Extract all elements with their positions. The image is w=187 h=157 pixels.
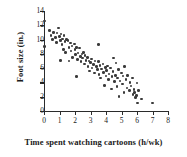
x-tick-mark (44, 111, 45, 115)
data-point (106, 65, 109, 68)
data-point (107, 78, 110, 81)
data-point (132, 93, 135, 96)
data-point (105, 75, 108, 78)
data-point (92, 63, 95, 66)
x-tick-label: 8 (161, 117, 175, 125)
data-point (87, 65, 90, 68)
data-point (104, 66, 107, 69)
x-tick-mark (122, 111, 123, 115)
data-point (131, 77, 134, 80)
data-point (98, 73, 101, 76)
data-point (86, 56, 89, 59)
data-point (126, 74, 129, 77)
x-axis-title: Time spent watching cartoons (h/wk) (0, 137, 187, 147)
data-point (78, 47, 81, 50)
data-point (112, 57, 115, 60)
data-point (83, 63, 86, 66)
data-point (125, 78, 128, 81)
data-point (59, 59, 62, 62)
data-point (122, 75, 125, 78)
data-point (140, 98, 143, 101)
y-tick-label: 4 (31, 78, 44, 86)
data-point (136, 82, 139, 85)
data-point (135, 94, 138, 97)
y-tick-label: 6 (31, 64, 44, 72)
data-point (79, 55, 82, 58)
data-point (75, 46, 78, 49)
data-point (123, 65, 126, 68)
data-point (130, 85, 133, 88)
data-point (94, 60, 97, 63)
y-tick-label: 10 (31, 36, 44, 44)
data-point (71, 45, 74, 48)
x-tick-mark (168, 111, 169, 115)
data-point (74, 48, 77, 51)
data-point (112, 70, 115, 73)
data-point (65, 38, 68, 41)
x-tick-label: 4 (99, 117, 113, 125)
data-point (75, 75, 78, 78)
data-point (89, 61, 92, 64)
data-point (57, 27, 60, 30)
y-tick-label: 0 (31, 107, 44, 115)
data-point (121, 83, 124, 86)
data-point (95, 65, 98, 68)
data-point (64, 40, 67, 43)
data-point (111, 75, 114, 78)
data-point (81, 53, 84, 56)
x-tick-mark (60, 111, 61, 115)
data-point (60, 33, 63, 36)
data-point (61, 43, 64, 46)
x-tick-label: 0 (37, 117, 51, 125)
x-tick-label: 6 (130, 117, 144, 125)
x-tick-label: 7 (146, 117, 160, 125)
data-point (97, 60, 100, 63)
data-point (123, 91, 126, 94)
data-point (82, 51, 85, 54)
data-point (70, 50, 73, 53)
data-point (119, 80, 122, 83)
data-point (113, 80, 116, 83)
data-point (88, 70, 91, 73)
data-point (99, 64, 102, 67)
data-point (68, 60, 71, 63)
data-point (50, 34, 53, 37)
x-tick-label: 3 (84, 117, 98, 125)
y-tick-label: 14 (31, 7, 44, 15)
data-point (77, 52, 80, 55)
data-point (56, 32, 59, 35)
data-point (108, 73, 111, 76)
data-point (69, 42, 72, 45)
x-tick-mark (137, 111, 138, 115)
data-point (126, 87, 129, 90)
data-point (54, 36, 57, 39)
data-point (61, 38, 64, 41)
data-point (64, 51, 67, 54)
data-point (105, 69, 108, 72)
data-point (85, 59, 88, 62)
data-point (76, 58, 79, 61)
data-point (59, 39, 62, 42)
data-point (91, 67, 94, 70)
data-point (102, 71, 105, 74)
data-point (71, 56, 74, 59)
data-point (128, 89, 131, 92)
x-tick-label: 2 (68, 117, 82, 125)
data-point (96, 68, 99, 71)
data-point (48, 29, 51, 32)
data-point (97, 43, 100, 46)
data-point (118, 95, 121, 98)
data-point (88, 60, 91, 63)
y-tick-label: 8 (31, 50, 44, 58)
data-point (52, 31, 55, 34)
data-point (67, 39, 70, 42)
data-point (129, 81, 132, 84)
x-tick-label: 1 (53, 117, 67, 125)
data-point (102, 63, 105, 66)
data-point (116, 85, 119, 88)
y-tick-label: 2 (31, 93, 44, 101)
data-point (103, 84, 106, 87)
x-tick-mark (91, 111, 92, 115)
scatter-plot-figure: Foot size (in.) 02468101214 012345678 Ti… (0, 0, 187, 157)
y-axis-line (44, 11, 45, 111)
